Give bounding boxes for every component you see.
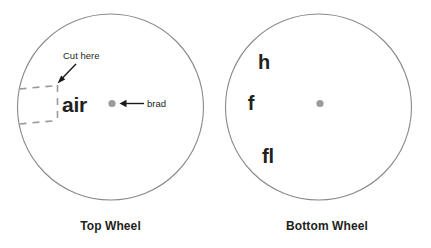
top-wheel-group: Cut here air brad Top Wheel (18, 14, 204, 233)
top-wheel-circle (18, 14, 204, 200)
bottom-wheel-letter-f: f (248, 92, 255, 114)
top-wheel-brad-icon (108, 100, 115, 107)
bottom-wheel-letter-fl: fl (262, 145, 274, 167)
cut-here-label: Cut here (63, 50, 99, 61)
bottom-wheel-letter-h: h (258, 51, 270, 73)
diagram-canvas: Cut here air brad Top Wheel h f fl (0, 0, 431, 248)
bottom-wheel-caption: Bottom Wheel (286, 219, 368, 233)
top-wheel-caption: Top Wheel (80, 219, 141, 233)
bottom-wheel-group: h f fl Bottom Wheel (226, 14, 412, 233)
brad-label: brad (147, 98, 166, 109)
bottom-wheel-brad-icon (316, 100, 323, 107)
wheel-diagram: Cut here air brad Top Wheel h f fl (0, 0, 431, 248)
window-word-air: air (62, 93, 87, 116)
